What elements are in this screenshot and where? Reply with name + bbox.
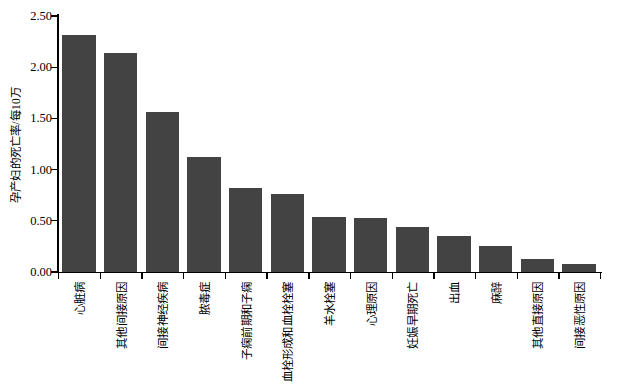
x-axis-tick-label: 脓毒症: [196, 282, 212, 390]
bar: [104, 53, 137, 272]
y-axis-tick-label: 0.00: [20, 266, 52, 279]
y-axis-tick-mark: [51, 271, 57, 272]
plot-area: [58, 16, 600, 272]
x-axis-tick-mark: [308, 273, 309, 279]
y-axis-tick-label: 2.00: [20, 61, 52, 74]
bar: [271, 194, 304, 272]
x-axis-tick-mark: [58, 273, 59, 279]
x-axis-tick-label-text: 麻醉: [488, 282, 504, 304]
bar: [479, 246, 512, 272]
x-axis-tick-mark: [517, 273, 518, 279]
x-axis-tick-label-text: 子痫前期和子痫: [238, 282, 254, 360]
x-axis-tick-label-text: 间接神经疾病: [154, 282, 170, 349]
bar: [437, 236, 470, 272]
y-axis-tick-label: 1.00: [20, 163, 52, 176]
x-axis-tick-mark: [183, 273, 184, 279]
x-axis-tick-label-text: 羊水栓塞: [321, 282, 337, 326]
y-axis-tick-labels: 0.000.501.001.502.002.50: [18, 0, 52, 392]
bar: [521, 259, 554, 272]
x-axis-tick-label: 血栓形成和血栓栓塞: [279, 282, 295, 390]
x-axis-tick-label: 其他直接原因: [529, 282, 545, 390]
y-axis-tick-mark: [51, 67, 57, 68]
x-axis-tick-label-text: 其他直接原因: [529, 282, 545, 349]
x-axis-tick-mark: [433, 273, 434, 279]
x-axis-tick-mark: [475, 273, 476, 279]
bar: [396, 227, 429, 272]
bar: [187, 157, 220, 272]
y-axis-tick-mark: [51, 15, 57, 16]
x-axis-tick-label: 心理原因: [363, 282, 379, 390]
y-axis-tick-label: 2.50: [20, 10, 52, 23]
x-axis-tick-label: 出血: [446, 282, 462, 390]
x-axis-tick-mark: [141, 273, 142, 279]
x-axis-tick-mark: [350, 273, 351, 279]
x-axis-tick-label-text: 妊娠早期死亡: [404, 282, 420, 349]
bar: [562, 264, 595, 272]
y-axis-tick-mark: [51, 169, 57, 170]
x-axis-tick-label-text: 间接恶性原因: [571, 282, 587, 349]
x-axis-tick-label-text: 心脏病: [71, 282, 87, 315]
x-axis-tick-mark: [558, 273, 559, 279]
x-axis-tick-label-text: 心理原因: [363, 282, 379, 326]
x-axis-tick-label: 心脏病: [71, 282, 87, 390]
bar: [229, 188, 262, 272]
y-axis-tick-label: 0.50: [20, 215, 52, 228]
x-axis-tick-label-text: 血栓形成和血栓栓塞: [279, 282, 295, 382]
x-axis-tick-label: 其他间接原因: [113, 282, 129, 390]
x-axis-tick-label: 羊水栓塞: [321, 282, 337, 390]
x-axis-tick-labels: 心脏病其他间接原因间接神经疾病脓毒症子痫前期和子痫血栓形成和血栓栓塞羊水栓塞心理…: [58, 282, 600, 392]
x-axis-tick-mark: [392, 273, 393, 279]
x-axis-tick-mark: [600, 273, 601, 279]
x-axis-tick-label: 麻醉: [488, 282, 504, 390]
x-axis-tick-mark: [100, 273, 101, 279]
bar: [312, 217, 345, 272]
x-axis-tick-label-text: 其他间接原因: [113, 282, 129, 349]
bar: [354, 218, 387, 272]
y-axis-tick-mark: [51, 118, 57, 119]
y-axis-tick-label: 1.50: [20, 112, 52, 125]
x-axis-tick-mark: [266, 273, 267, 279]
y-axis-tick-mark: [51, 220, 57, 221]
x-axis-tick-label: 子痫前期和子痫: [238, 282, 254, 390]
x-axis-tick-label: 间接恶性原因: [571, 282, 587, 390]
x-axis-tick-label-text: 脓毒症: [196, 282, 212, 315]
x-axis-tick-label: 妊娠早期死亡: [404, 282, 420, 390]
x-axis-tick-label-text: 出血: [446, 282, 462, 304]
bar-chart: 孕产妇的死亡率/每10万 0.000.501.001.502.002.50 心脏…: [0, 0, 621, 392]
bar: [62, 35, 95, 272]
x-axis-tick-mark: [225, 273, 226, 279]
x-axis-tick-label: 间接神经疾病: [154, 282, 170, 390]
bar: [146, 112, 179, 272]
